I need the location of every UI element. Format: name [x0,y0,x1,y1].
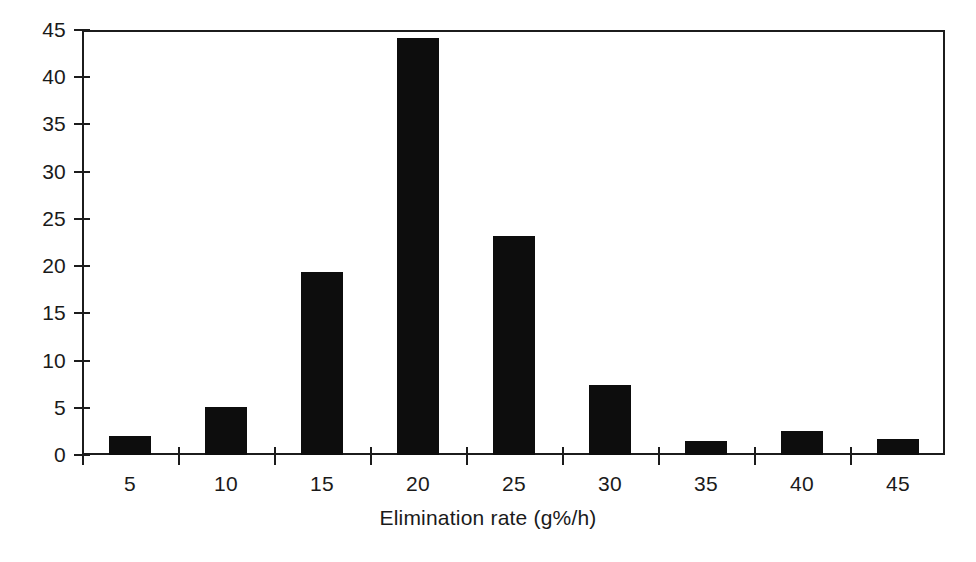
y-axis-tick-label: 5 [12,397,66,418]
y-axis-tick [74,312,90,314]
bars-layer [82,30,945,455]
y-axis-tick [74,29,90,31]
y-axis-labels: 051015202530354045 [0,0,66,562]
y-axis-tick [74,218,90,220]
x-axis-tick [370,447,372,465]
x-axis-tick-label: 45 [858,472,938,496]
x-axis-tick [466,447,468,465]
x-axis-tick-label: 30 [570,472,650,496]
x-axis-tick-label: 40 [762,472,842,496]
x-axis-tick-label: 35 [666,472,746,496]
y-axis-tick-label: 20 [12,255,66,276]
bar [397,38,439,455]
x-axis-tick [850,447,852,465]
y-axis-tick [74,171,90,173]
y-axis-tick-label: 10 [12,350,66,371]
x-axis-tick-label: 25 [474,472,554,496]
y-axis-tick [74,76,90,78]
y-axis-tick-label: 25 [12,208,66,229]
bar [493,236,535,455]
x-axis-tick-label: 20 [378,472,458,496]
y-axis-tick-label: 15 [12,302,66,323]
bar [589,385,631,455]
x-axis-tick [274,447,276,465]
bar [685,441,727,455]
bar [109,436,151,455]
y-axis-tick-label: 0 [12,444,66,465]
x-axis-title: Elimination rate (g%/h) [0,505,976,531]
x-axis-tick-label: 10 [186,472,266,496]
x-axis-tick [82,447,84,465]
x-axis-tick-label: 5 [90,472,170,496]
y-axis-tick-label: 30 [12,161,66,182]
x-axis-tick [562,447,564,465]
bar-chart: 051015202530354045 51015202530354045 Eli… [0,0,976,562]
bar [205,407,247,455]
y-axis-tick [74,123,90,125]
y-axis-tick-label: 35 [12,113,66,134]
x-axis-tick [658,447,660,465]
bar [301,272,343,455]
y-axis-tick-label: 45 [12,19,66,40]
y-axis-tick [74,407,90,409]
bar [877,439,919,455]
y-axis-tick-label: 40 [12,66,66,87]
x-axis-tick [754,447,756,465]
y-axis-tick [74,265,90,267]
bar [781,431,823,455]
y-axis-tick [74,360,90,362]
x-axis-tick [178,447,180,465]
x-axis-tick-label: 15 [282,472,362,496]
